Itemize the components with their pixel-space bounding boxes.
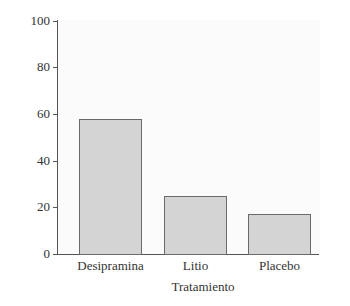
y-tick-label: 0 (14, 247, 50, 261)
y-tick-label: 20 (14, 200, 50, 214)
y-tick (53, 254, 57, 255)
y-tick (53, 67, 57, 68)
y-tick-label: 60 (14, 107, 50, 121)
bar-chart: 020406080100 DesipraminaLitioPlacebo Tra… (0, 0, 350, 306)
y-tick (53, 21, 57, 22)
bar-litio (164, 196, 227, 255)
y-tick (53, 207, 57, 208)
bar-placebo (248, 214, 311, 255)
category-label: Desipramina (66, 258, 156, 273)
category-label: Litio (151, 258, 241, 273)
y-tick (53, 114, 57, 115)
y-tick-label: 100 (14, 14, 50, 28)
y-tick-label: 40 (14, 154, 50, 168)
y-tick-label: 80 (14, 60, 50, 74)
bar-desipramina (79, 119, 142, 255)
category-label: Placebo (235, 258, 325, 273)
y-axis (57, 20, 58, 255)
x-axis-title: Tratamiento (148, 279, 258, 295)
y-tick (53, 161, 57, 162)
